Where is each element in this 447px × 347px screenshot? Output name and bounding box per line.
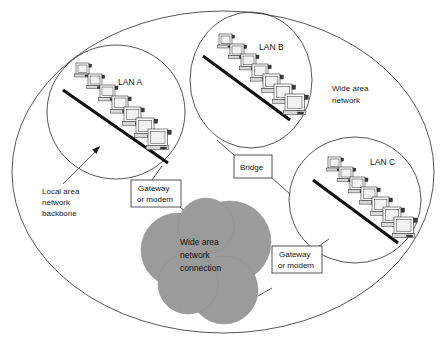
bridge-to-lan-c-connector — [272, 178, 290, 194]
lan-a-label: LAN A — [118, 77, 142, 87]
wan-annotation-line2: network — [332, 96, 361, 105]
lan-c-nodes — [327, 157, 418, 238]
cloud-label-line2: network — [180, 250, 211, 260]
lan-c-boundary — [289, 137, 421, 263]
network-diagram: LAN A — [0, 0, 447, 347]
workstation — [392, 217, 417, 238]
backbone-annotation-line1: Local area — [42, 187, 80, 196]
network-diagram-canvas: LAN A — [0, 0, 447, 347]
backbone-callout-arrowhead — [92, 146, 100, 154]
workstation — [283, 94, 308, 115]
wan-connection-cloud — [141, 198, 271, 324]
gateway-right-line2: or modem — [278, 261, 314, 270]
cloud-label-line3: connection — [180, 263, 221, 273]
lan-c-label: LAN C — [370, 157, 395, 167]
bridge-label: Bridge — [240, 163, 264, 172]
backbone-annotation-line3: backbone — [42, 209, 77, 218]
lan-b-label: LAN B — [259, 42, 284, 52]
gateway-right-upper-connector — [319, 239, 329, 246]
gateway-right-lower-connector — [258, 288, 272, 296]
cloud-label-line1: Wide area — [180, 237, 219, 247]
wan-annotation-line1: Wide area — [332, 84, 369, 93]
gateway-right-line1: Gateway — [279, 250, 311, 259]
gateway-left-line2: or modem — [137, 195, 173, 204]
backbone-callout-leader — [63, 150, 97, 184]
backbone-annotation-line2: network — [42, 198, 71, 207]
gateway-left-line1: Gateway — [138, 184, 170, 193]
workstation — [146, 129, 171, 150]
